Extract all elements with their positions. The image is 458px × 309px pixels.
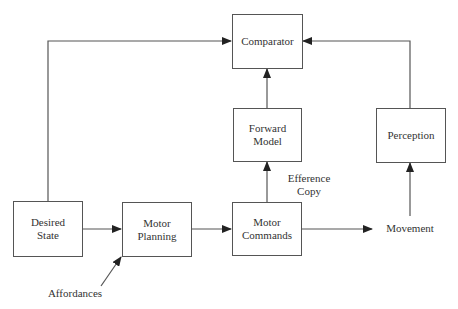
edge-desired-to-comparator xyxy=(48,41,231,201)
perception-box: Perception xyxy=(376,108,446,163)
desired-state-label: Desired State xyxy=(31,216,65,242)
movement-label: Movement xyxy=(375,222,445,235)
efference-copy-label: Efference Copy xyxy=(274,172,344,198)
forward-model-label: Forward Model xyxy=(249,122,286,148)
motor-planning-box: Motor Planning xyxy=(122,202,192,257)
forward-model-box: Forward Model xyxy=(233,108,302,162)
affordances-label: Affordances xyxy=(40,287,110,300)
edge-affordances-to-planning xyxy=(101,257,121,286)
comparator-box: Comparator xyxy=(232,14,303,69)
edge-perception-to-comparator xyxy=(303,41,410,108)
comparator-label: Comparator xyxy=(241,35,294,48)
motor-commands-box: Motor Commands xyxy=(232,202,302,256)
desired-state-box: Desired State xyxy=(13,201,83,257)
perception-label: Perception xyxy=(387,129,434,142)
motor-planning-label: Motor Planning xyxy=(137,217,176,243)
motor-commands-label: Motor Commands xyxy=(242,216,292,242)
